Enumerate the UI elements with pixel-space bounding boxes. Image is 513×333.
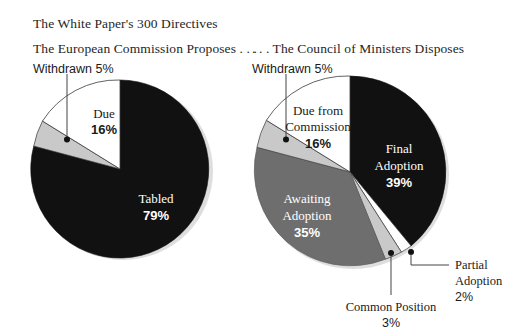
left-label-due-value: 16% (91, 122, 117, 137)
right-partial-leader-line (411, 254, 449, 265)
right-common-leader-dot (388, 250, 394, 256)
left-pie-chart: Due 16% Tabled 79% (31, 74, 213, 260)
charts-canvas: Due 16% Tabled 79% (0, 0, 513, 333)
left-label-due-name: Due (93, 106, 115, 121)
right-partial-label-value: 2% (455, 290, 473, 304)
right-withdrawn-leader-dot (283, 137, 289, 143)
right-partial-label-line1: Partial (455, 258, 488, 272)
right-label-due-name-l1: Due from (293, 103, 343, 118)
pie-chart-figure: The White Paper's 300 Directives The Eur… (0, 0, 513, 333)
right-label-awaiting-name-l1: Awaiting (283, 191, 331, 206)
right-label-awaiting-value: 35% (294, 225, 320, 240)
left-label-tabled-value: 79% (143, 208, 169, 223)
right-common-label-value: 3% (382, 316, 400, 330)
right-label-awaiting-name-l2: Adoption (282, 208, 332, 223)
left-withdrawn-leader-dot (64, 137, 70, 143)
right-label-due-name-l2: Commission (285, 119, 351, 134)
right-label-final-name-l1: Final (386, 141, 413, 156)
right-common-label-name: Common Position (346, 300, 437, 314)
right-label-final-name-l2: Adoption (374, 158, 424, 173)
right-label-due-value: 16% (305, 136, 331, 151)
right-partial-label-line2: Adoption (455, 274, 503, 288)
left-label-tabled-name: Tabled (138, 191, 174, 206)
right-label-final-value: 39% (386, 175, 412, 190)
right-pie-chart: Partial Adoption 2% Common Position 3% D… (254, 74, 503, 330)
